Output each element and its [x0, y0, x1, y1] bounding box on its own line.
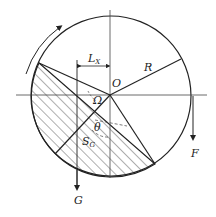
label-F: F: [190, 147, 199, 160]
label-Lx: LX: [87, 52, 101, 66]
drum-diagram: LX O R Ω θ SG G F: [0, 0, 216, 217]
hatched-load-segment: [31, 63, 155, 177]
label-O: O: [112, 77, 121, 90]
label-omega: Ω: [92, 94, 102, 107]
label-R: R: [143, 61, 152, 74]
label-theta: θ: [94, 121, 101, 134]
label-G: G: [74, 194, 83, 207]
